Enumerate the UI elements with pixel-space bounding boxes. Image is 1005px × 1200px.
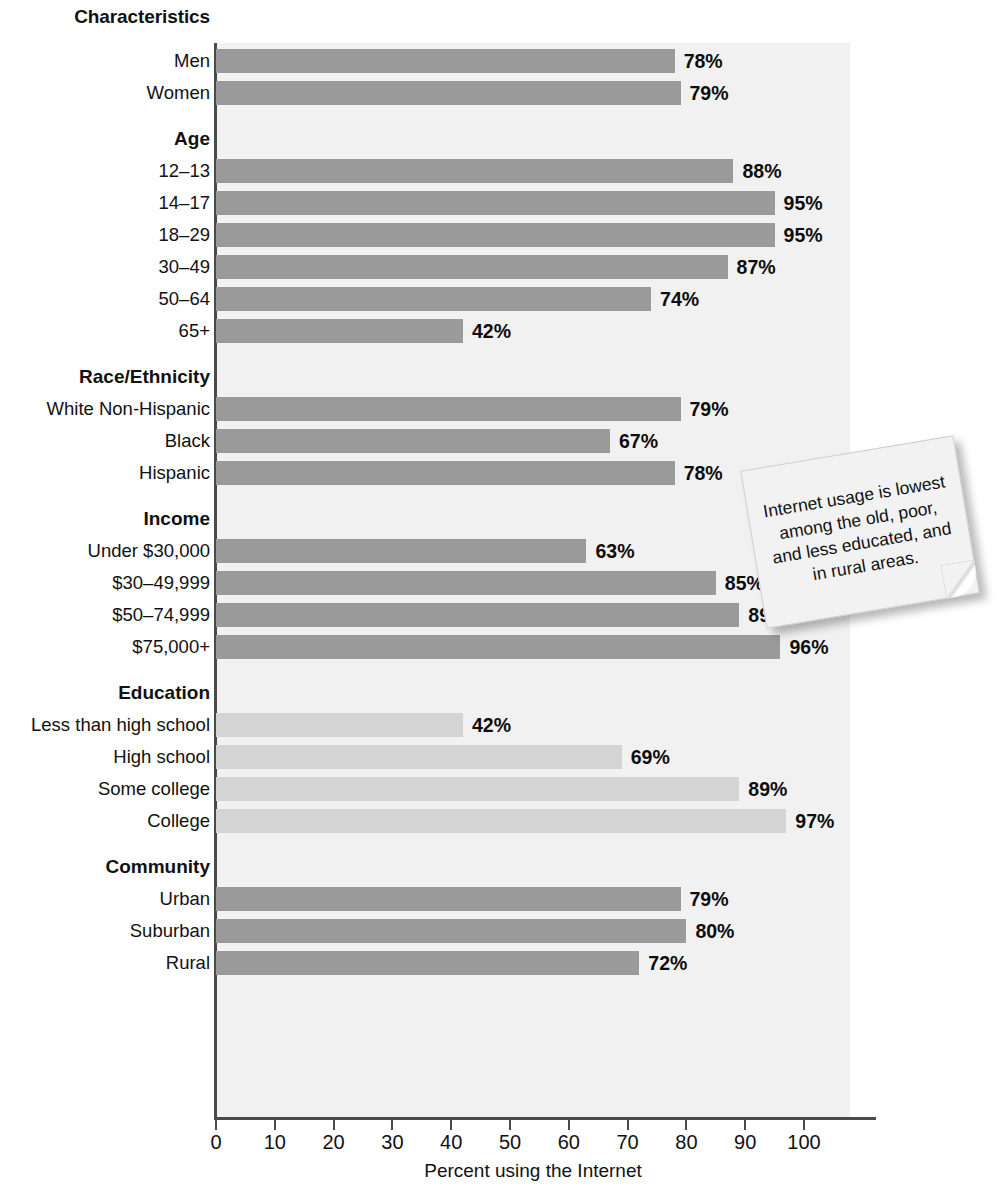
- x-tick-label: 70: [598, 1131, 658, 1154]
- bar-value-label: 95%: [784, 190, 823, 216]
- bar-row: $75,000+96%: [0, 632, 1005, 662]
- bar-value-label: 67%: [619, 428, 658, 454]
- bar-value-label: 74%: [660, 286, 699, 312]
- bar: [216, 919, 686, 943]
- bar-value-label: 79%: [690, 80, 729, 106]
- bar-category-label: $75,000+: [0, 632, 210, 662]
- group-header-row: Education: [0, 678, 1005, 708]
- x-tick-label: 50: [480, 1131, 540, 1154]
- bar-value-label: 88%: [742, 158, 781, 184]
- x-tick-mark: [803, 1119, 805, 1130]
- group-header-label: Education: [0, 678, 210, 708]
- bar-category-label: Suburban: [0, 916, 210, 946]
- bar-value-label: 89%: [748, 776, 787, 802]
- bar: [216, 223, 775, 247]
- bar: [216, 319, 463, 343]
- group-header-row: Race/Ethnicity: [0, 362, 1005, 392]
- bar-category-label: 30–49: [0, 252, 210, 282]
- x-tick-mark: [568, 1119, 570, 1130]
- chart-figure: Characteristics Men78%Women79%Age12–1388…: [0, 0, 1005, 1200]
- bar-row: 65+42%: [0, 316, 1005, 346]
- bar-category-label: 12–13: [0, 156, 210, 186]
- x-tick-mark: [274, 1119, 276, 1130]
- bar-value-label: 80%: [695, 918, 734, 944]
- bar: [216, 397, 681, 421]
- bar: [216, 777, 739, 801]
- group-header-label: Race/Ethnicity: [0, 362, 210, 392]
- bar-value-label: 96%: [789, 634, 828, 660]
- bar-row: White Non-Hispanic79%: [0, 394, 1005, 424]
- group-header-label: Income: [0, 504, 210, 534]
- bar-row: 30–4987%: [0, 252, 1005, 282]
- bar: [216, 809, 786, 833]
- bar: [216, 713, 463, 737]
- bar-category-label: Under $30,000: [0, 536, 210, 566]
- x-tick-mark: [450, 1119, 452, 1130]
- x-tick-label: 100: [774, 1131, 834, 1154]
- bar: [216, 571, 716, 595]
- bar: [216, 539, 586, 563]
- bar-row: Less than high school42%: [0, 710, 1005, 740]
- bar-category-label: Hispanic: [0, 458, 210, 488]
- bar-row: Suburban80%: [0, 916, 1005, 946]
- bar-row: College97%: [0, 806, 1005, 836]
- bar-row: 14–1795%: [0, 188, 1005, 218]
- bar: [216, 159, 733, 183]
- bar-row: High school69%: [0, 742, 1005, 772]
- x-tick-mark: [391, 1119, 393, 1130]
- bar-row: Men78%: [0, 46, 1005, 76]
- group-header-label: Age: [0, 124, 210, 154]
- bar-value-label: 78%: [684, 460, 723, 486]
- bar: [216, 81, 681, 105]
- bar-row: 18–2995%: [0, 220, 1005, 250]
- bar-category-label: Urban: [0, 884, 210, 914]
- bar-category-label: Some college: [0, 774, 210, 804]
- bar-category-label: Rural: [0, 948, 210, 978]
- bar-value-label: 79%: [690, 886, 729, 912]
- bar: [216, 191, 775, 215]
- chart-heading: Characteristics: [0, 6, 210, 28]
- bar-category-label: White Non-Hispanic: [0, 394, 210, 424]
- bar: [216, 887, 681, 911]
- x-tick-mark: [627, 1119, 629, 1130]
- bar-value-label: 69%: [631, 744, 670, 770]
- bar-value-label: 63%: [595, 538, 634, 564]
- bar: [216, 603, 739, 627]
- bar-category-label: 50–64: [0, 284, 210, 314]
- x-tick-label: 0: [186, 1131, 246, 1154]
- bar-category-label: 14–17: [0, 188, 210, 218]
- bar: [216, 461, 675, 485]
- bar-category-label: Less than high school: [0, 710, 210, 740]
- x-tick-label: 90: [715, 1131, 775, 1154]
- bar-category-label: Women: [0, 78, 210, 108]
- x-tick-mark: [509, 1119, 511, 1130]
- bar: [216, 951, 639, 975]
- bar: [216, 745, 622, 769]
- bar-value-label: 72%: [648, 950, 687, 976]
- bar: [216, 429, 610, 453]
- annotation-text: Internet usage is lowest among the old, …: [741, 436, 978, 627]
- bar-row: 50–6474%: [0, 284, 1005, 314]
- bar-value-label: 79%: [690, 396, 729, 422]
- bar: [216, 49, 675, 73]
- bar-row: Some college89%: [0, 774, 1005, 804]
- x-tick-mark: [215, 1119, 217, 1130]
- bar-category-label: College: [0, 806, 210, 836]
- x-tick-label: 10: [245, 1131, 305, 1154]
- bar-row: 12–1388%: [0, 156, 1005, 186]
- x-axis-line: [214, 1117, 876, 1120]
- x-tick-mark: [744, 1119, 746, 1130]
- bar-value-label: 97%: [795, 808, 834, 834]
- bar: [216, 287, 651, 311]
- bar-value-label: 95%: [784, 222, 823, 248]
- bar-value-label: 87%: [737, 254, 776, 280]
- bar-category-label: 18–29: [0, 220, 210, 250]
- x-tick-label: 30: [362, 1131, 422, 1154]
- bar-category-label: $30–49,999: [0, 568, 210, 598]
- bar: [216, 635, 780, 659]
- bar-category-label: Black: [0, 426, 210, 456]
- bar-value-label: 78%: [684, 48, 723, 74]
- bar-value-label: 42%: [472, 712, 511, 738]
- x-tick-mark: [685, 1119, 687, 1130]
- x-tick-label: 40: [421, 1131, 481, 1154]
